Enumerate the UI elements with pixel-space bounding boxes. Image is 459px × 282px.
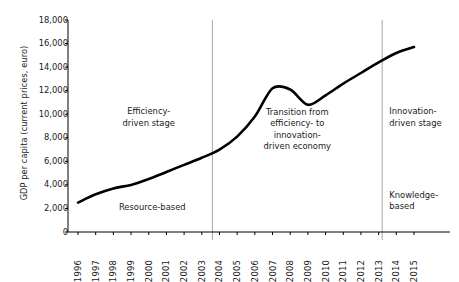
x-tick-label: 2008 [286,260,294,282]
x-tick-label: 2006 [251,260,259,282]
x-tick-label: 2011 [339,260,347,282]
x-tick-label: 1997 [92,260,100,282]
chart-figure: GDP per capita (current prices, euro) 02… [0,0,459,282]
x-tick-label: 2002 [180,260,188,282]
x-tick-label: 2015 [410,260,418,282]
x-tick-label: 1998 [109,260,117,282]
x-tick-label: 2014 [392,260,400,282]
x-tick-label: 2007 [269,260,277,282]
annotation-knowledge-based: Knowledge- based [389,190,459,213]
x-tick-label: 1996 [74,260,82,282]
x-tick-label: 2010 [322,260,330,282]
x-tick-label: 2009 [304,260,312,282]
x-tick-label: 1999 [127,260,135,282]
x-tick-label: 2000 [145,260,153,282]
x-tick-label: 2003 [198,260,206,282]
x-tick-label: 2013 [375,260,383,282]
x-tick-label: 2012 [357,260,365,282]
x-tick-label: 2005 [233,260,241,282]
x-axis-tick-labels: 1996199719981999200020012002200320042005… [0,238,459,282]
annotation-innovation-driven-stage: Innovation- driven stage [389,106,459,129]
annotation-transition-economy: Transition from efficiency- to innovatio… [249,107,345,153]
annotation-resource-based: Resource-based [104,202,200,213]
annotation-efficiency-driven-stage: Efficiency- driven stage [101,106,197,129]
x-tick-label: 2001 [162,260,170,282]
x-tick-label: 2004 [215,260,223,282]
